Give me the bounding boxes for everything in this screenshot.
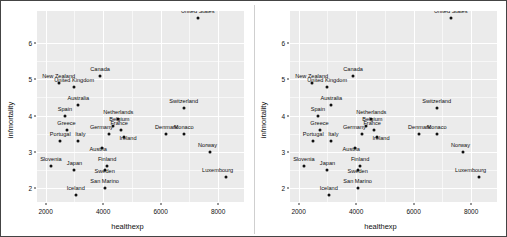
gridline-minor-vertical (442, 11, 443, 202)
gridline-major-horizontal (37, 116, 244, 117)
x-axis-title: healthexp (254, 222, 507, 231)
data-point-label: Ireland (372, 137, 389, 143)
data-point-label: Spain (58, 107, 72, 113)
data-point-label: Australia (67, 96, 89, 102)
data-point (103, 186, 106, 189)
y-axis-tick-label: 5 (281, 76, 285, 83)
data-point-label: United States (434, 11, 468, 15)
x-axis-tick-mark (471, 203, 472, 205)
x-axis-tick-label: 6000 (406, 208, 420, 215)
y-axis-tick-mark (287, 115, 289, 116)
data-point (120, 128, 123, 131)
gridline-minor-horizontal (290, 61, 497, 62)
x-axis-tick-mark (413, 203, 414, 205)
data-point-label: Monaco (427, 125, 447, 131)
data-point-label: Switzerland (169, 100, 198, 106)
x-axis-tick-mark (218, 203, 219, 205)
data-point (74, 193, 77, 196)
data-point (435, 107, 438, 110)
data-point (352, 74, 355, 77)
data-point (208, 150, 211, 153)
data-point-label: Switzerland (422, 100, 451, 106)
data-point-label: Australia (320, 96, 342, 102)
scatter-panel-right: infmortality United StatesCanadaNew Zeal… (254, 1, 507, 237)
scatter-panel-left: infmortality United StatesCanadaNew Zeal… (1, 1, 254, 237)
data-point-label: Netherlands (356, 111, 386, 117)
y-axis-tick-label: 5 (28, 76, 32, 83)
gridline-minor-vertical (74, 11, 75, 202)
x-axis-tick-mark (356, 203, 357, 205)
data-point-label: Canada (343, 67, 363, 73)
gridline-major-horizontal (37, 152, 244, 153)
data-point (224, 175, 227, 178)
x-axis-tick-mark (160, 203, 161, 205)
figure-frame: infmortality United StatesCanadaNew Zeal… (0, 0, 507, 237)
gridline-minor-vertical (189, 11, 190, 202)
x-axis-tick-label: 2000 (38, 208, 52, 215)
gridline-major-horizontal (290, 43, 497, 44)
data-point-label: Japan (320, 161, 335, 167)
y-axis-tick-mark (34, 79, 36, 80)
data-point-label: Sweden (348, 169, 368, 175)
data-point (59, 139, 62, 142)
x-axis-title: healthexp (1, 222, 254, 231)
data-point-label: Norway (451, 143, 470, 149)
data-point-label: Portugal (303, 132, 324, 138)
gridline-major-vertical (299, 11, 300, 202)
data-point-label: Netherlands (103, 111, 133, 117)
data-point (373, 128, 376, 131)
x-axis-tick-mark (298, 203, 299, 205)
gridline-major-horizontal (37, 43, 244, 44)
data-point (326, 85, 329, 88)
data-point-label: Luxembourg (202, 168, 233, 174)
data-point-label: Sweden (95, 169, 115, 175)
y-axis-tick-mark (34, 187, 36, 188)
gridline-minor-vertical (132, 11, 133, 202)
y-axis-tick-mark (34, 151, 36, 152)
gridline-major-vertical (46, 11, 47, 202)
y-axis-tick-mark (34, 115, 36, 116)
gridline-major-vertical (161, 11, 162, 202)
y-axis-tick-mark (287, 151, 289, 152)
data-point (99, 74, 102, 77)
data-point (312, 139, 315, 142)
data-point (316, 114, 319, 117)
data-point-label: Finland (98, 157, 116, 163)
data-point-label: Norway (198, 143, 217, 149)
data-point-label: Monaco (174, 125, 194, 131)
data-point (477, 175, 480, 178)
data-point (435, 132, 438, 135)
y-axis-title: infmortality (3, 1, 17, 237)
data-point-label: France (363, 121, 380, 127)
y-axis-tick-label: 3 (28, 148, 32, 155)
x-axis-tick-label: 8000 (464, 208, 478, 215)
data-point-label: Italy (75, 132, 85, 138)
data-point-label: Iceland (320, 186, 338, 192)
y-axis-tick-label: 2 (28, 184, 32, 191)
x-axis-tick-label: 4000 (349, 208, 363, 215)
data-point (330, 139, 333, 142)
y-axis-tick-label: 3 (281, 148, 285, 155)
data-point (461, 150, 464, 153)
x-axis-tick-label: 4000 (96, 208, 110, 215)
data-point-label: Slovenia (293, 157, 314, 163)
y-axis-tick-label: 4 (28, 112, 32, 119)
data-point (330, 103, 333, 106)
data-point-label: San Marino (90, 179, 119, 185)
plot-area: United StatesCanadaNew ZealandUnited Kin… (290, 11, 497, 202)
data-point (77, 103, 80, 106)
data-point-label: Spain (311, 107, 325, 113)
plot-area: United StatesCanadaNew ZealandUnited Kin… (37, 11, 244, 202)
y-axis-tick-mark (287, 187, 289, 188)
y-axis-tick-mark (287, 79, 289, 80)
data-point-label: Austria (90, 147, 107, 153)
data-point (49, 164, 52, 167)
data-point-label: Austria (343, 147, 360, 153)
data-point-label: Luxembourg (455, 168, 486, 174)
x-axis-tick-label: 2000 (291, 208, 305, 215)
data-point (449, 17, 452, 20)
data-point-label: Finland (351, 157, 369, 163)
gridline-major-horizontal (290, 116, 497, 117)
x-axis-tick-mark (103, 203, 104, 205)
data-point-label: Ireland (119, 137, 136, 143)
